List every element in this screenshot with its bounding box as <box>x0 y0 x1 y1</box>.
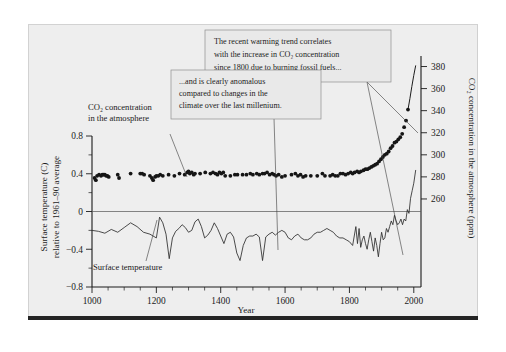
co2-data-point <box>107 175 111 179</box>
y-right-tick-label: 380 <box>431 62 445 72</box>
y-right-tick-label: 360 <box>431 84 445 94</box>
x-tick-label: 1800 <box>340 296 359 306</box>
co2-data-point <box>304 174 308 178</box>
y-right-tick-label: 340 <box>431 106 445 116</box>
co2-data-point <box>236 173 240 177</box>
callout2-line3: climate over the last millenium. <box>179 101 282 110</box>
x-tick-label: 1000 <box>83 296 102 306</box>
co2-data-point <box>398 135 402 139</box>
x-tick-label: 1200 <box>147 296 166 306</box>
co2-series-label: CO₂ concentration in the atmosphere <box>88 102 153 123</box>
callout1-line2: with the increase in CO₂ concentration <box>214 50 339 59</box>
co2-data-point <box>116 173 120 177</box>
y-left-axis-title-line2: relative to 1961–90 average <box>51 156 61 258</box>
callout-anomalous: ...and is clearly anomalous compared to … <box>171 70 321 119</box>
x-tick-label: 1400 <box>211 296 230 306</box>
co2-data-point <box>151 178 155 182</box>
y-left-tick-label: 0 <box>78 207 83 217</box>
leader-callout1-to-co2 <box>367 82 418 133</box>
y-right-tick-label: 260 <box>431 194 445 204</box>
y-right-axis-title: CO₂ concentration in the atmosphere (ppm… <box>467 78 477 239</box>
temp-label-line1: Surface temperature <box>93 262 163 272</box>
surface-temperature-line <box>92 170 416 261</box>
callout1-line1: The recent warming trend correlates <box>214 37 331 46</box>
leader-callout2-to-temp <box>274 118 278 250</box>
co2-data-point <box>223 174 227 178</box>
figure-bottom-rule <box>28 316 478 320</box>
co2-data-point <box>309 174 313 178</box>
y-left-axis-title-line1: Surface temperature (C) <box>39 163 49 252</box>
co2-data-point <box>193 172 197 176</box>
co2-data-point <box>203 171 207 175</box>
climate-chart: 100012001400160018002000 0.80.40−0.4−0.8… <box>29 25 479 317</box>
y-right-tick-label: 280 <box>431 172 445 182</box>
x-axis-title: Year <box>238 305 255 315</box>
x-axis-ticks: 100012001400160018002000 <box>83 287 424 306</box>
y-left-axis-ticks: 0.80.40−0.4−0.8 <box>66 131 92 292</box>
co2-data-point <box>400 132 404 136</box>
co2-data-point <box>290 173 294 177</box>
co2-data-point <box>172 174 176 178</box>
co2-data-point <box>129 172 133 176</box>
co2-data-point <box>198 172 202 176</box>
leader-co2label-to-points <box>170 134 187 177</box>
y-left-tick-label: −0.8 <box>66 282 83 292</box>
co2-data-point <box>277 173 281 177</box>
co2-data-point <box>245 173 249 177</box>
co2-modern-line <box>408 65 416 109</box>
co2-data-point <box>283 174 287 178</box>
co2-data-point <box>142 173 146 177</box>
co2-data-point <box>251 173 255 177</box>
co2-data-point <box>178 172 182 176</box>
y-left-tick-label: 0.8 <box>71 131 83 141</box>
y-left-tick-label: −0.4 <box>66 245 83 255</box>
co2-data-point <box>167 173 171 177</box>
co2-label-line2: in the atmosphere <box>88 113 149 123</box>
co2-data-point <box>221 171 225 175</box>
x-tick-label: 2000 <box>404 296 423 306</box>
leader-templabel-to-line <box>146 220 157 261</box>
co2-data-point <box>391 144 395 148</box>
callout2-line2: compared to changes in the <box>179 89 268 98</box>
y-left-tick-label: 0.4 <box>71 169 83 179</box>
co2-data-point <box>280 175 284 179</box>
y-right-tick-label: 320 <box>431 128 445 138</box>
co2-data-point <box>117 176 121 180</box>
co2-data-point <box>228 174 232 178</box>
co2-data-point <box>387 150 391 154</box>
co2-data-point <box>315 174 319 178</box>
callout2-line1: ...and is clearly anomalous <box>179 77 265 86</box>
co2-label-line1: CO₂ concentration <box>88 102 153 112</box>
co2-data-point <box>406 108 410 112</box>
figure-panel: 100012001400160018002000 0.80.40−0.4−0.8… <box>28 24 478 316</box>
co2-data-point <box>404 119 408 123</box>
x-tick-label: 1600 <box>276 296 295 306</box>
co2-data-point <box>241 173 245 177</box>
temperature-series-label: Surface temperature <box>93 262 163 272</box>
co2-data-point <box>161 174 165 178</box>
y-right-tick-label: 300 <box>431 150 445 160</box>
co2-data-point <box>323 174 327 178</box>
y-right-axis-ticks: 380360340320300280260 <box>421 62 445 204</box>
co2-data-point <box>94 178 98 182</box>
co2-data-point <box>402 125 406 129</box>
